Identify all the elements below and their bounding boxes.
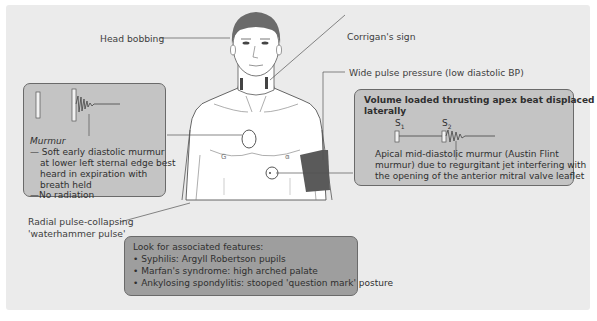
label-head-bobbing: Head bobbing xyxy=(100,33,164,44)
neck-artery-left xyxy=(240,78,243,90)
murmur-phonogram xyxy=(24,84,165,144)
s2-sound-bar xyxy=(72,89,76,121)
s2-sound-bar xyxy=(442,131,446,142)
label-corrigans-sign: Corrigan's sign xyxy=(347,31,416,42)
apex-title-line2: laterally xyxy=(364,106,406,117)
label-radial-pulse-line1: Radial pulse-collapsing xyxy=(28,216,134,227)
neck-artery-right xyxy=(265,77,268,89)
murmur-line: —No radiation xyxy=(30,190,94,201)
s1-sound-bar xyxy=(36,92,40,118)
apex-title-line1: Volume loaded thrusting apex beat displa… xyxy=(364,95,595,106)
feature-item: • Ankylosing spondylitis: stooped 'quest… xyxy=(133,278,393,289)
decrescendo-murmur-wave xyxy=(76,96,120,112)
apex-beat-box: Volume loaded thrusting apex beat displa… xyxy=(354,89,574,186)
murmur-title: Murmur xyxy=(30,136,65,147)
s1-sound-bar xyxy=(395,131,399,142)
murmur-line: — Soft early diastolic murmur xyxy=(30,147,164,158)
label-radial-pulse-line2: 'waterhammer pulse' xyxy=(28,228,125,239)
feature-item: • Syphilis: Argyll Robertson pupils xyxy=(133,254,286,265)
apex-desc-line: Apical mid-diastolic murmur (Austin Flin… xyxy=(375,149,559,160)
feature-item: • Marfan's syndrome: high arched palate xyxy=(133,266,318,277)
features-title: Look for associated features: xyxy=(133,242,263,253)
svg-text:G: G xyxy=(221,153,226,161)
svg-text:ɞ: ɞ xyxy=(285,153,290,161)
apex-desc-line: the opening of the anterior mitral valve… xyxy=(375,171,584,182)
label-wide-pulse-pressure: Wide pulse pressure (low diastolic BP) xyxy=(349,67,524,78)
murmur-line: at lower left sternal edge best xyxy=(40,158,176,169)
associated-features-box: Look for associated features: • Syphilis… xyxy=(124,236,358,296)
mid-diastolic-murmur-wave xyxy=(446,130,495,142)
murmur-box: Murmur — Soft early diastolic murmur at … xyxy=(23,83,166,197)
murmur-line: heard in expiration with xyxy=(40,169,147,180)
apex-desc-line: murmur) due to regurgitant jet interferi… xyxy=(375,160,586,171)
